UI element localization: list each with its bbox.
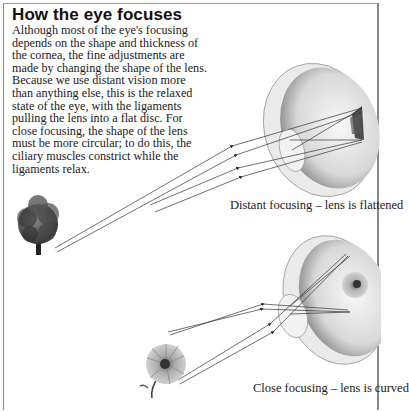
distant-eye — [245, 47, 381, 212]
caption-close: Close focusing – lens is curved — [253, 381, 409, 396]
close-eye — [265, 221, 381, 379]
flower-illustration — [140, 344, 186, 398]
tree-illustration — [17, 195, 59, 255]
caption-distant: Distant focusing – lens is flattened — [230, 198, 403, 213]
